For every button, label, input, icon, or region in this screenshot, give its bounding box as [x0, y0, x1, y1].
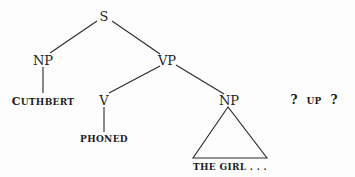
leaf-cuthbert: CUTHBERT [12, 92, 75, 108]
leaf-the-girl: THE GIRL . . . [193, 163, 267, 172]
node-np-object: NP [219, 94, 239, 107]
leaf-cuthbert-initial: C [12, 95, 21, 108]
question-mark-right: ? [330, 94, 337, 106]
edge-s-np [50, 21, 97, 53]
question-mark-left: ? [290, 94, 297, 106]
leaf-cuthbert-rest: UTHBERT [21, 97, 75, 107]
tree-edges [0, 0, 355, 177]
np-triangle [193, 107, 267, 158]
node-s: S [100, 10, 109, 23]
node-v: V [99, 94, 108, 107]
node-vp: VP [158, 54, 176, 67]
edge-vp-v [109, 66, 160, 93]
leaf-phoned: PHONED [80, 135, 128, 144]
node-np-subject: NP [33, 54, 53, 67]
edge-s-vp [112, 21, 160, 54]
edge-vp-np [176, 65, 224, 94]
particle-up: UP [306, 97, 321, 106]
